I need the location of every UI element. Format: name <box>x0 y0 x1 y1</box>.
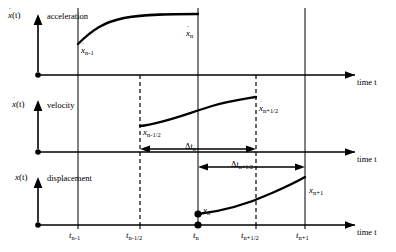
displacement-curve <box>198 177 305 214</box>
tick3-sub: n+1/2 <box>244 234 259 241</box>
acceleration-value-label-n-1: ¨xn-1 <box>81 46 94 56</box>
acceleration-axis-symbol: ¨x(t) <box>8 11 21 20</box>
displacement-time-axis-label: time t <box>357 228 377 237</box>
velocity-symbol-dots: ˙ <box>13 96 16 103</box>
tick2-sub: n <box>196 234 199 241</box>
disp-n-sub: n <box>207 209 210 216</box>
displacement-value-label-n+1: xn+1 <box>309 186 323 196</box>
figure-graphics <box>0 0 396 252</box>
velocity-symbol-suffix: (t) <box>16 99 25 109</box>
vel-n-half-sub: n-1/2 <box>147 131 161 138</box>
dtn-half-sub: n+1/2 <box>239 164 253 170</box>
displacement-start-marker <box>194 210 201 217</box>
accel-n-1-sub: n-1 <box>85 49 94 56</box>
tick1-sub: n-1/2 <box>129 234 143 241</box>
displacement-axis-symbol: x(t) <box>15 173 28 182</box>
accel-n-1-dots: ¨ <box>82 42 85 49</box>
acceleration-value-label-n: ¨xn <box>186 29 193 39</box>
acceleration-value-axis <box>34 14 43 72</box>
tick4-sub: n+1 <box>299 234 309 241</box>
disp-n1-sub: n+1 <box>313 189 323 196</box>
acceleration-curve <box>78 14 198 44</box>
dtn-sub: n <box>193 146 196 152</box>
dtn-half-symbol: Δt <box>231 159 239 169</box>
integration-scheme-figure: ¨x(t) acceleration time t ¨xn-1 ¨xn ˙x(t… <box>0 0 396 252</box>
dtn-symbol: Δt <box>185 141 193 151</box>
velocity-time-axis-label: time t <box>357 155 377 164</box>
tick0-sub: n-1 <box>72 234 81 241</box>
displacement-symbol-suffix: (t) <box>19 172 28 182</box>
timeaxis-tn-marker <box>194 221 201 228</box>
velocity-axis-symbol: ˙x(t) <box>12 100 25 109</box>
tick-label-tn-half: tn-1/2 <box>126 231 142 241</box>
displacement-symbol-base: x <box>15 172 19 182</box>
velocity-quantity-label: velocity <box>47 101 74 110</box>
tick-label-tn: tn <box>193 231 199 241</box>
tick-label-tn+half: tn+1/2 <box>241 231 259 241</box>
vel-n1half-sub: n+1/2 <box>263 107 278 114</box>
accel-n-dots: ¨ <box>187 25 190 32</box>
acceleration-time-axis <box>35 71 355 79</box>
acceleration-time-axis-label: time t <box>357 78 377 87</box>
displacement-quantity-label: displacement <box>47 174 92 183</box>
velocity-value-label-n-half: ˙xn-1/2 <box>143 128 161 138</box>
tick-label-tn+1: tn+1 <box>296 231 309 241</box>
velocity-value-axis <box>34 100 43 149</box>
interval-label-dtn-half: Δtn+1/2 <box>231 160 253 170</box>
acceleration-symbol-suffix: (t) <box>12 10 21 20</box>
displacement-value-axis <box>34 177 43 222</box>
acceleration-symbol-dots: ¨ <box>9 7 12 14</box>
vel-n-half-dots: ˙ <box>144 124 147 131</box>
acceleration-quantity-label: acceleration <box>47 12 88 21</box>
velocity-value-label-n+half: ˙xn+1/2 <box>259 104 278 114</box>
accel-n-sub: n <box>190 32 193 39</box>
vel-n1half-dots: ˙ <box>260 100 263 107</box>
interval-label-dtn: Δtn <box>185 142 196 152</box>
displacement-value-label-n: xn <box>203 206 210 216</box>
tick-label-tn-1: tn-1 <box>69 231 80 241</box>
